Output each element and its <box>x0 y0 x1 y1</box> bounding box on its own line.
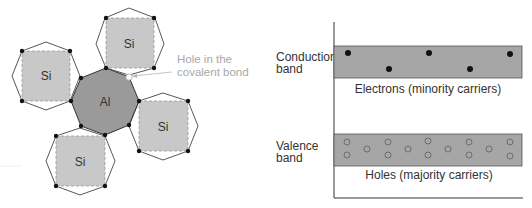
holes-caption: Holes (majority carriers) <box>365 168 492 182</box>
si-label-top: Si <box>124 37 135 51</box>
al-label: Al <box>100 95 111 109</box>
si-atom-bottom: Si <box>46 128 115 195</box>
si-label-right: Si <box>158 120 169 134</box>
hole-label-line2: covalent bond <box>177 66 249 78</box>
electrons-caption: Electrons (minority carriers) <box>355 82 502 96</box>
si-atom-top: Si <box>96 8 164 75</box>
hole-marker <box>126 74 132 80</box>
conduction-band-label-line2: band <box>276 62 303 76</box>
hole-label-line1: Hole in the <box>177 53 232 65</box>
valence-band <box>334 134 522 166</box>
crystal-lattice: Si Si Si Si <box>0 8 249 195</box>
valence-band-label-line2: band <box>276 151 303 165</box>
si-label-left: Si <box>41 69 52 83</box>
diagram-canvas: Si Si Si Si <box>0 0 532 208</box>
band-diagram: Conduction band Electrons (minority carr… <box>276 22 523 198</box>
si-label-bottom: Si <box>75 155 86 169</box>
